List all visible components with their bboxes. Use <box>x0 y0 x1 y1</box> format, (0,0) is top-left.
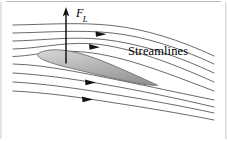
streamline <box>13 91 214 120</box>
force-subscript: L <box>83 14 88 24</box>
flow-arrowhead <box>85 80 96 86</box>
streamline <box>13 82 214 113</box>
lift-force-label: FL <box>76 7 88 22</box>
airfoil-streamlines-figure: Streamlines FL <box>0 0 227 141</box>
flow-arrowhead <box>82 97 93 103</box>
flow-arrowhead <box>89 44 100 50</box>
figure-canvas <box>0 0 227 141</box>
streamlines-label: Streamlines <box>128 45 188 58</box>
